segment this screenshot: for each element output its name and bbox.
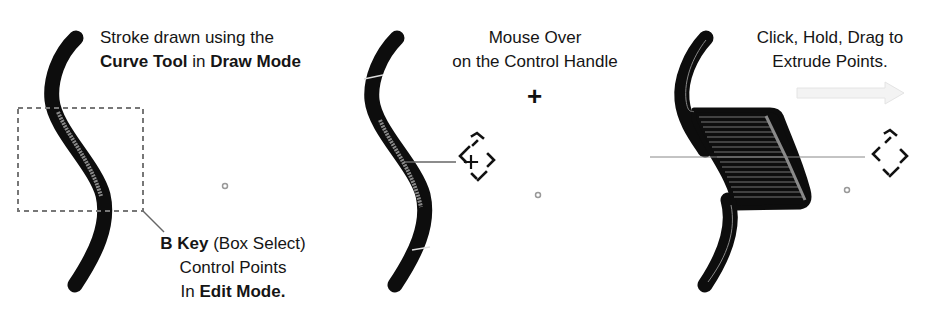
plus-cursor-icon: +: [527, 83, 542, 109]
caption-line: Extrude Points.: [735, 50, 925, 74]
caption-extrude: Click, Hold, Drag to Extrude Points.: [735, 26, 925, 74]
caption-line: Mouse Over: [430, 26, 640, 50]
caption-line: Click, Hold, Drag to: [735, 26, 925, 50]
panel-3-stroke: [650, 38, 907, 285]
leader-line: [143, 211, 164, 232]
caption-text: in: [188, 52, 211, 71]
curve-stroke: [52, 38, 105, 285]
caption-line: In Edit Mode.: [143, 280, 323, 304]
caption-text: In: [181, 282, 200, 301]
mode-name: Draw Mode: [210, 52, 301, 71]
caption-line: B Key (Box Select): [143, 232, 323, 256]
caption-line: Control Points: [143, 256, 323, 280]
move-handle-icon[interactable]: [873, 130, 907, 176]
tool-name: Curve Tool: [100, 52, 188, 71]
origin-dot: [223, 184, 228, 189]
caption-mouse-over: Mouse Over on the Control Handle: [430, 26, 640, 74]
caption-line: Curve Tool in Draw Mode: [100, 50, 301, 74]
move-handle-icon[interactable]: [460, 133, 494, 180]
caption-line: Stroke drawn using the: [100, 26, 301, 50]
extruded-surface: [694, 110, 809, 208]
caption-draw-stroke: Stroke drawn using the Curve Tool in Dra…: [100, 26, 301, 74]
mode-name: Edit Mode.: [199, 282, 285, 301]
panel-2-stroke: [364, 38, 541, 285]
caption-text: (Box Select): [208, 234, 305, 253]
drag-direction-arrow-icon: [797, 82, 904, 104]
caption-box-select: B Key (Box Select) Control Points In Edi…: [143, 232, 323, 304]
curve-stroke-lower: [705, 200, 730, 285]
origin-dot: [845, 188, 850, 193]
key-name: B Key: [160, 234, 208, 253]
caption-line: on the Control Handle: [430, 50, 640, 74]
origin-dot: [536, 193, 541, 198]
